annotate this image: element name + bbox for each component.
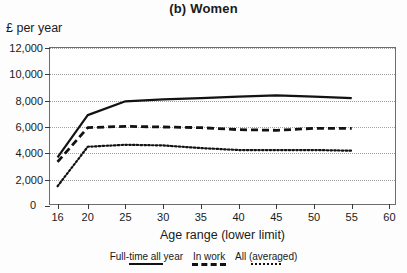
- legend-swatch-solid: [129, 263, 163, 267]
- legend-item-label: In work: [193, 251, 225, 262]
- chart-legend: Full-time all yearIn workAll (averaged): [0, 251, 407, 267]
- x-axis-label: 35: [195, 211, 207, 223]
- series-line: [58, 145, 352, 186]
- chart-figure: (b) Women £ per year 2,0004,0006,0008,00…: [0, 0, 407, 273]
- y-axis-label: 12,000: [9, 42, 43, 54]
- legend-item[interactable]: In work: [192, 251, 226, 267]
- y-axis-label: 4,000: [15, 147, 43, 159]
- series-line: [58, 126, 352, 162]
- series-lines: [50, 48, 397, 206]
- x-axis-label: 50: [308, 211, 320, 223]
- y-axis-label: 6,000: [15, 121, 43, 133]
- x-axis-label: 30: [157, 211, 169, 223]
- legend-item-label: Full-time all year: [110, 251, 183, 262]
- x-axis-label: 60: [383, 211, 395, 223]
- chart-title: (b) Women: [0, 1, 407, 16]
- legend-swatch-dashed: [192, 263, 226, 267]
- legend-item-label: All (averaged): [235, 251, 297, 262]
- y-axis-tick: [45, 206, 50, 207]
- x-axis-title: Age range (lower limit): [49, 228, 396, 242]
- legend-swatch-dotted: [251, 263, 281, 267]
- x-axis-label: 16: [51, 211, 63, 223]
- plot-area: 2,0004,0006,0008,00010,00012,000 1620253…: [49, 47, 396, 205]
- y-axis-label: 8,000: [15, 95, 43, 107]
- x-axis-label: 55: [346, 211, 358, 223]
- legend-item[interactable]: Full-time all year: [110, 251, 183, 267]
- x-axis-label: 45: [270, 211, 282, 223]
- y-axis-zero-label: 0: [30, 199, 36, 211]
- legend-item[interactable]: All (averaged): [235, 251, 297, 267]
- y-axis-label: 10,000: [9, 68, 43, 80]
- y-axis-title: £ per year: [6, 21, 62, 35]
- y-axis-label: 2,000: [15, 174, 43, 186]
- x-axis-label: 20: [82, 211, 94, 223]
- x-axis-label: 40: [232, 211, 244, 223]
- x-axis-label: 25: [119, 211, 131, 223]
